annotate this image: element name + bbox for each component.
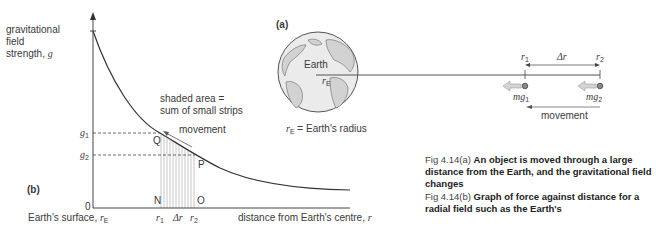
x-axis-label: distance from Earth's centre, r xyxy=(238,212,372,224)
delta-r-label-a: Δr xyxy=(557,51,567,63)
caption-b: Fig 4.14(b) Graph of force against dista… xyxy=(425,191,656,215)
radius-legend: rE = Earth's radius xyxy=(286,123,367,138)
force2-label: mg2 xyxy=(586,91,602,106)
point-o-label: O xyxy=(197,195,205,207)
point-n-label: N xyxy=(154,195,161,207)
radius-label: rE xyxy=(322,75,331,90)
y-axis-label-line2: field xyxy=(6,36,60,48)
movement-label-a: movement xyxy=(541,110,588,122)
shaded-note-line2: sum of small strips xyxy=(160,105,243,117)
panel-b-label: (b) xyxy=(27,184,40,196)
g1-label: g1 xyxy=(80,127,89,142)
y-axis-arrow-icon xyxy=(90,12,96,20)
r2-tick-label: r2 xyxy=(190,212,198,227)
mass-1-icon xyxy=(522,83,528,89)
earth-label: Earth xyxy=(304,59,328,71)
panel-a-label: (a) xyxy=(276,19,288,31)
mass-2-icon xyxy=(597,83,603,89)
caption-a: Fig 4.14(a) An object is moved through a… xyxy=(425,154,656,190)
y-axis-symbol: g xyxy=(48,48,53,59)
shaded-note-line1: shaded area = xyxy=(160,93,243,105)
movement-label-b: movement xyxy=(179,124,226,136)
earth-figure xyxy=(278,32,603,112)
force-arrow-2-icon xyxy=(578,81,596,91)
r2-label-a: r2 xyxy=(596,51,604,66)
y-axis-label-line1: gravitational xyxy=(6,24,60,36)
y-axis-label: gravitational field strength, g xyxy=(6,24,60,60)
g2-label: g2 xyxy=(80,149,89,164)
force1-label: mg1 xyxy=(513,91,529,106)
shaded-area-note: shaded area = sum of small strips xyxy=(160,93,243,117)
r1-tick-label: r1 xyxy=(156,212,164,227)
caption-a-label: Fig 4.14(a) xyxy=(425,154,471,165)
delta-r-label: Δr xyxy=(173,212,183,224)
y-axis-label-line3: strength, xyxy=(6,48,45,59)
point-q-label: Q xyxy=(153,135,161,147)
earth-surface-label: Earth's surface, rE xyxy=(28,212,109,227)
caption-b-label: Fig 4.14(b) xyxy=(425,191,471,202)
point-p-label: P xyxy=(198,159,205,171)
r1-label-a: r1 xyxy=(521,51,529,66)
force-arrow-1-icon xyxy=(503,81,521,91)
